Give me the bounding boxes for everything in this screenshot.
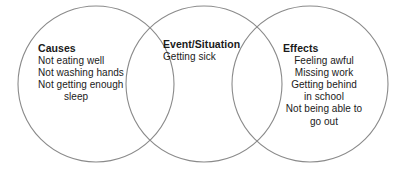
- section-effects-line-2: Missing work: [262, 67, 386, 79]
- section-causes-line-4: sleep: [38, 91, 124, 103]
- section-causes-line-3: Not getting enough: [38, 79, 124, 91]
- section-effects-line-4: in school: [262, 91, 386, 103]
- section-causes-heading: Causes: [38, 42, 124, 55]
- section-event-line-1: Getting sick: [163, 51, 240, 63]
- section-effects-heading: Effects: [283, 42, 386, 55]
- section-event-heading: Event/Situation: [163, 38, 240, 51]
- section-effects-line-6: go out: [262, 116, 386, 128]
- section-event: Event/Situation Getting sick: [163, 38, 240, 63]
- venn-diagram: Causes Not eating well Not washing hands…: [0, 0, 410, 170]
- section-effects-line-1: Feeling awful: [262, 55, 386, 67]
- section-effects-line-5: Not being able to: [262, 103, 386, 115]
- section-effects-line-3: Getting behind: [262, 79, 386, 91]
- section-effects: Effects Feeling awful Missing work Getti…: [262, 42, 386, 128]
- section-causes-line-1: Not eating well: [38, 55, 124, 67]
- section-causes-line-2: Not washing hands: [38, 67, 124, 79]
- circle-event: [126, 6, 282, 162]
- section-causes: Causes Not eating well Not washing hands…: [38, 42, 124, 103]
